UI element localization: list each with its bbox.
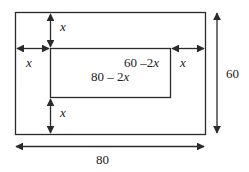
bottom-inset-label: x <box>59 105 66 120</box>
outer-height-label: 60 <box>226 66 239 81</box>
diagram-canvas: x x x x 60 –2x 80 – 2x 60 80 <box>0 0 249 172</box>
outer-width-label: 80 <box>96 152 109 167</box>
top-inset-label: x <box>59 19 66 34</box>
inner-width-label: 80 – 2x <box>91 69 130 84</box>
left-inset-label: x <box>25 55 32 70</box>
right-inset-label: x <box>179 55 186 70</box>
inner-height-label: 60 –2x <box>124 55 159 70</box>
